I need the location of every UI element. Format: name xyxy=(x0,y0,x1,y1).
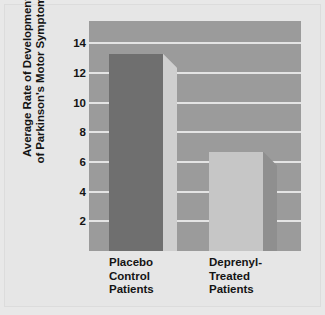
x-axis-category-label-line: Placebo xyxy=(109,256,154,270)
y-axis-tick-label: 12 xyxy=(60,67,86,79)
x-axis-category-label-line: Control xyxy=(109,270,154,284)
x-axis-category-label: PlaceboControlPatients xyxy=(109,256,154,297)
x-axis-category-label-line: Treated xyxy=(209,270,262,284)
y-axis-tick-label: 14 xyxy=(60,37,86,49)
x-axis-category-label-line: Deprenyl- xyxy=(209,256,262,270)
plot-area xyxy=(89,21,301,251)
y-axis-tick-label: 2 xyxy=(60,215,86,227)
bar-1-side-face xyxy=(163,54,177,251)
y-axis-tick-label: 4 xyxy=(60,186,86,198)
x-axis-category-labels: PlaceboControlPatientsDeprenyl-TreatedPa… xyxy=(89,256,321,306)
bar-2 xyxy=(209,152,277,251)
x-axis-category-label-line: Patients xyxy=(209,283,262,297)
x-axis-category-label: Deprenyl-TreatedPatients xyxy=(209,256,262,297)
chart-figure-frame: Average Rate of Development of Parkinson… xyxy=(4,4,321,307)
bar-2-side-face xyxy=(263,152,277,251)
y-axis-title-line-1: Average Rate of Development xyxy=(21,0,34,157)
chart-figure: Average Rate of Development of Parkinson… xyxy=(0,0,325,315)
bar-1-front-face xyxy=(109,54,163,251)
x-axis-category-label-line: Patients xyxy=(109,283,154,297)
bar-1 xyxy=(109,54,177,251)
bar-2-front-face xyxy=(209,152,263,251)
y-axis-tick-label: 6 xyxy=(60,156,86,168)
y-axis-tick-labels: 1412108642 xyxy=(60,21,86,251)
y-axis-tick-label: 8 xyxy=(60,126,86,138)
y-axis-tick-label: 10 xyxy=(60,97,86,109)
y-axis-title: Average Rate of Development of Parkinson… xyxy=(14,0,54,182)
gridline xyxy=(89,42,301,44)
y-axis-title-line-2: of Parkinson's Motor Symptoms xyxy=(34,0,47,164)
